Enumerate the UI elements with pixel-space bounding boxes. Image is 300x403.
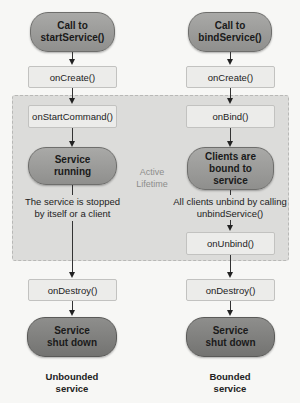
left-service-shut-down-node: Serviceshut down [27,317,117,357]
bounded-service-caption: Bounded service [180,371,280,395]
arrow-down-icon [69,59,75,65]
on-unbind-node: onUnbind() [186,232,275,255]
right-service-shut-down-node: Serviceshut down [186,317,275,357]
arrow-down-icon [69,98,75,104]
on-bind-node: onBind() [186,105,275,128]
unbounded-service-caption: Unbounded service [22,371,122,395]
service-stopped-note: The service is stopped by itself or a cl… [12,196,133,220]
arrow-down-icon [227,310,233,316]
connector [72,221,73,272]
connector [72,185,73,195]
active-lifetime-label: Active Lifetime [130,166,174,190]
arrow-down-icon [227,272,233,278]
clients-unbind-note: All clients unbind by calling unbindServ… [160,196,300,220]
service-running-node: Servicerunning [28,147,117,185]
connector [72,128,73,141]
call-start-service-node: Call tostartService() [30,12,115,52]
right-on-destroy-node: onDestroy() [186,279,275,301]
clients-bound-node: Clients arebound toservice [187,147,274,190]
arrow-down-icon [227,225,233,231]
on-start-command-node: onStartCommand() [28,105,117,128]
call-bind-service-node: Call tobindService() [188,12,272,52]
arrow-down-icon [227,98,233,104]
left-on-create-node: onCreate() [28,66,117,88]
connector [230,190,231,195]
right-on-create-node: onCreate() [186,66,275,88]
arrow-down-icon [69,310,75,316]
arrow-down-icon [69,272,75,278]
connector [230,128,231,141]
left-on-destroy-node: onDestroy() [28,279,117,301]
arrow-down-icon [227,59,233,65]
connector [230,255,231,272]
